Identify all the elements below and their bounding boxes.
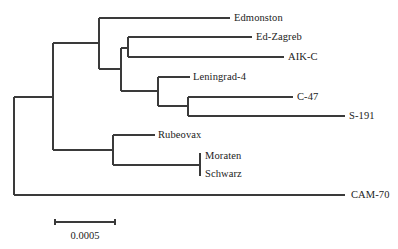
taxon-label-aik-c: AIK-C xyxy=(288,51,318,63)
taxon-label-rubeovax: Rubeovax xyxy=(158,129,201,141)
phylogenetic-tree xyxy=(0,0,398,249)
taxon-label-s-191: S-191 xyxy=(349,110,375,122)
tree-branches xyxy=(14,18,345,195)
taxon-label-edmonston: Edmonston xyxy=(234,12,283,24)
taxon-label-moraten: Moraten xyxy=(205,150,241,162)
taxon-label-c-47: C-47 xyxy=(297,91,318,103)
taxon-label-leningrad-4: Leningrad-4 xyxy=(193,71,246,83)
scale-bar xyxy=(55,219,115,225)
taxon-label-ed-zagreb: Ed-Zagreb xyxy=(256,31,302,43)
taxon-label-schwarz: Schwarz xyxy=(205,168,242,180)
scale-bar-label: 0.0005 xyxy=(71,230,100,242)
taxon-label-cam-70: CAM-70 xyxy=(351,189,390,201)
